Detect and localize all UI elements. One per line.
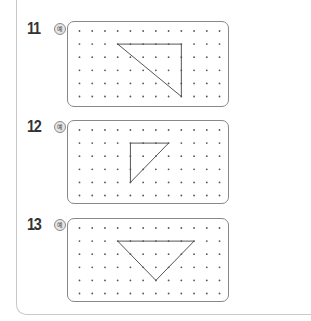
grid-dot [219, 168, 221, 170]
grid-dot [117, 129, 119, 131]
grid-dot [117, 182, 119, 184]
grid-dot [79, 280, 81, 282]
grid-dot [79, 227, 81, 229]
grid-dot [91, 240, 93, 242]
grid-dot [219, 266, 221, 268]
grid-dot [206, 129, 208, 131]
grid-dot [117, 155, 119, 157]
grid-dot [130, 227, 132, 229]
grid-dot [180, 155, 182, 157]
grid-dot [79, 69, 81, 71]
dot-grid [67, 218, 229, 302]
grid-dot [206, 96, 208, 98]
grid-dot [206, 155, 208, 157]
grid-dot [219, 280, 221, 282]
grid-dot [117, 168, 119, 170]
grid-dot [219, 240, 221, 242]
grid-dot [79, 293, 81, 295]
grid-dot [168, 182, 170, 184]
grid-dot [168, 30, 170, 32]
grid-dot [206, 56, 208, 58]
grid-dot [206, 266, 208, 268]
grid-dot [142, 293, 144, 295]
grid-dot [79, 96, 81, 98]
grid-dot [219, 182, 221, 184]
grid-dot [193, 43, 195, 45]
grid-dot [104, 96, 106, 98]
grid-dot [193, 69, 195, 71]
grid-dot [219, 69, 221, 71]
triangle-shape [118, 241, 194, 280]
problem-number: 13 [27, 215, 41, 235]
grid-dot [104, 240, 106, 242]
grid-dot [104, 266, 106, 268]
grid-dot [142, 30, 144, 32]
grid-dot [168, 56, 170, 58]
grid-dot [219, 155, 221, 157]
grid-dot [155, 293, 157, 295]
grid-dot [155, 83, 157, 85]
grid-dot [130, 280, 132, 282]
grid-dot [206, 30, 208, 32]
grid-dot [155, 227, 157, 229]
grid-dot [79, 129, 81, 131]
grid-dot [142, 280, 144, 282]
grid-dot [155, 30, 157, 32]
grid-dot [206, 69, 208, 71]
grid-dot [91, 129, 93, 131]
grid-dot [206, 83, 208, 85]
grid-dot [79, 253, 81, 255]
grid-dot [130, 56, 132, 58]
grid-dot [219, 227, 221, 229]
problem-number: 11 [27, 19, 40, 39]
grid-dot [130, 293, 132, 295]
problem-number: 12 [27, 117, 41, 137]
grid-dot [91, 266, 93, 268]
grid-dot [219, 293, 221, 295]
grid-dot [91, 43, 93, 45]
grid-dot [104, 129, 106, 131]
grid-dot [168, 129, 170, 131]
grid-dot [168, 96, 170, 98]
grid-dot [155, 69, 157, 71]
grid-dot [91, 253, 93, 255]
grid-dot [193, 129, 195, 131]
grid-dot [104, 227, 106, 229]
grid-dot [104, 293, 106, 295]
grid-dot [180, 168, 182, 170]
grid-dot [193, 227, 195, 229]
grid-dot [180, 293, 182, 295]
grid-dot [130, 266, 132, 268]
grid-dot [180, 142, 182, 144]
grid-dot [117, 280, 119, 282]
grid-dot [193, 168, 195, 170]
grid-dot [104, 168, 106, 170]
grid-dot [79, 83, 81, 85]
grid-dot [180, 30, 182, 32]
grid-dot [104, 142, 106, 144]
grid-dot [193, 253, 195, 255]
grid-dot [117, 69, 119, 71]
grid-dot [180, 227, 182, 229]
example-badge: 예 [54, 23, 66, 35]
grid-dot [155, 129, 157, 131]
grid-dot [168, 227, 170, 229]
grid-dot [117, 30, 119, 32]
grid-dot [219, 83, 221, 85]
grid-dot [79, 182, 81, 184]
grid-dot [180, 266, 182, 268]
grid-dot [168, 280, 170, 282]
grid-dot [206, 142, 208, 144]
grid-dot [219, 96, 221, 98]
grid-dot [91, 195, 93, 197]
grid-dot [219, 253, 221, 255]
grid-dot [142, 69, 144, 71]
grid-dot [168, 168, 170, 170]
grid-dot [142, 56, 144, 58]
grid-dot [206, 195, 208, 197]
grid-dot [104, 43, 106, 45]
grid-dot [104, 83, 106, 85]
grid-dot [117, 142, 119, 144]
grid-dot [130, 30, 132, 32]
grid-dot [104, 195, 106, 197]
